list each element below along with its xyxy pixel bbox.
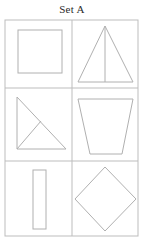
shape-grid xyxy=(0,0,144,243)
grid-cell-4 xyxy=(72,88,138,161)
grid-cell-5 xyxy=(5,161,72,236)
grid-cell-2 xyxy=(72,20,138,88)
grid-cell-1 xyxy=(5,20,72,88)
stimulus-sheet: Set A xyxy=(0,0,144,243)
grid-cell-3 xyxy=(5,88,72,161)
grid-cell-6 xyxy=(72,161,138,236)
